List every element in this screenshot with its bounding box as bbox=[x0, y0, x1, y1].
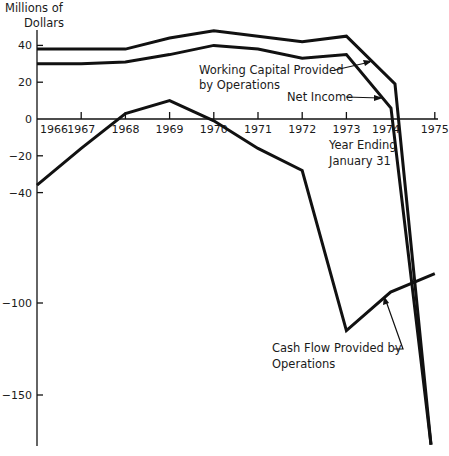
x-tick-label: 1972 bbox=[288, 123, 316, 136]
x-tick-label: 1969 bbox=[156, 123, 184, 136]
working-capital-label-line2: by Operations bbox=[199, 78, 280, 92]
x-tick-label: 1968 bbox=[111, 123, 139, 136]
x-tick-label: 1966 bbox=[40, 123, 68, 136]
y-axis-title-line2: Dollars bbox=[24, 16, 64, 30]
x-axis-title-line2: January 31 bbox=[328, 154, 391, 168]
working-capital-label-line1: Working Capital Provided bbox=[199, 63, 343, 77]
y-tick-label: −150 bbox=[2, 389, 32, 402]
line-chart: Millions of Dollars 40200−20−40−100−150 … bbox=[0, 0, 449, 456]
x-tick-label: 1974 bbox=[372, 123, 400, 136]
x-axis-title-line1: Year Ending bbox=[328, 138, 397, 152]
y-tick-label: 40 bbox=[18, 39, 32, 52]
working-capital-arrowhead-icon bbox=[363, 60, 372, 66]
y-tick-label: −20 bbox=[9, 150, 32, 163]
net-income-label: Net Income bbox=[287, 90, 353, 104]
x-tick-label: 1973 bbox=[332, 123, 360, 136]
x-tick-label: 1971 bbox=[244, 123, 272, 136]
y-tick-label: −40 bbox=[9, 187, 32, 200]
y-tick-label: −100 bbox=[2, 297, 32, 310]
x-tick-label: 1967 bbox=[67, 123, 95, 136]
cash-flow-label-line2: Operations bbox=[272, 357, 335, 371]
y-tick-label: 20 bbox=[18, 76, 32, 89]
y-tick-label: 0 bbox=[25, 113, 32, 126]
cash-flow-label-line1: Cash Flow Provided by bbox=[272, 341, 402, 355]
x-tick-label: 1970 bbox=[200, 123, 228, 136]
y-axis-title-line1: Millions of bbox=[5, 1, 64, 15]
working-capital-line bbox=[37, 31, 431, 445]
net-income-line bbox=[37, 45, 431, 444]
x-tick-label: 1975 bbox=[421, 123, 449, 136]
